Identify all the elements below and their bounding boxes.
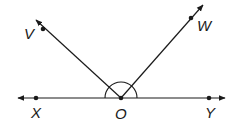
point-o — [119, 96, 124, 101]
ray-ov — [36, 20, 121, 98]
point-x — [34, 96, 39, 101]
point-y — [207, 96, 212, 101]
label-y: Y — [205, 104, 216, 121]
point-w — [189, 16, 194, 21]
label-w: W — [197, 17, 213, 34]
label-v: V — [24, 25, 36, 42]
label-x: X — [30, 104, 42, 121]
geometry-diagram: V W X O Y — [0, 0, 241, 135]
point-v — [41, 27, 46, 32]
label-o: O — [115, 105, 127, 122]
